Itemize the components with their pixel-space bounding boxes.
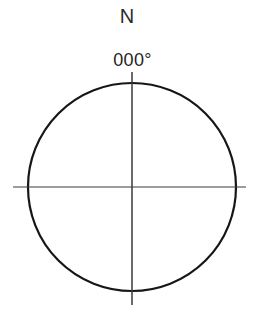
- bearing-label: 000°: [0, 51, 254, 69]
- compass-graphic: [0, 0, 254, 317]
- cardinal-label-north: N: [0, 6, 254, 26]
- compass-diagram: N 000°: [0, 0, 254, 317]
